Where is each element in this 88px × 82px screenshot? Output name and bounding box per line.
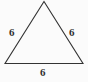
- right-side-length-label: 6: [69, 27, 75, 38]
- base-side-length-label: 6: [40, 67, 46, 78]
- triangle-figure: 6 6 6: [0, 0, 88, 82]
- left-side-length-label: 6: [9, 27, 15, 38]
